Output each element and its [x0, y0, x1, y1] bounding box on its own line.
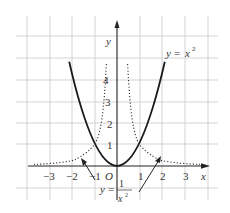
- x-tick-label: 1: [138, 170, 144, 182]
- x-tick-label: 2: [160, 170, 166, 182]
- x-axis-label: x: [200, 170, 206, 182]
- svg-text:1: 1: [119, 178, 124, 189]
- x-tick-label: 3: [183, 170, 189, 182]
- svg-text:x: x: [184, 47, 190, 59]
- y-axis-label: y: [105, 35, 111, 47]
- svg-text:y: y: [99, 183, 105, 195]
- y-axis-arrow-icon: [115, 20, 120, 28]
- curve-y-equals-1-over-x-squared-left: [34, 64, 106, 164]
- svg-text:y: y: [165, 47, 171, 59]
- label-y-equals-x-squared: y = x 2: [165, 45, 196, 59]
- svg-text:2: 2: [125, 192, 128, 198]
- svg-text:2: 2: [192, 45, 196, 53]
- x-tick-label: −1: [89, 170, 101, 182]
- y-tick-label: 2: [107, 118, 113, 130]
- x-tick-label: −2: [66, 170, 78, 182]
- x-axis-arrow-icon: [201, 163, 210, 168]
- y-tick-label: 3: [105, 96, 111, 108]
- graph-canvas: −3 −2 −1 O 1 2 3 x 1 2 3 4 y y = x 2 y =…: [0, 0, 230, 213]
- origin-label: O: [105, 170, 113, 182]
- y-tick-label: 4: [103, 74, 109, 86]
- pointer-right-arrow-icon: [155, 156, 161, 163]
- svg-text:x: x: [117, 193, 123, 204]
- svg-text:=: =: [108, 183, 114, 195]
- x-tick-label: −3: [43, 170, 55, 182]
- curve-y-equals-1-over-x-squared-right: [128, 64, 200, 164]
- svg-text:=: =: [174, 47, 180, 59]
- y-tick-label: 1: [107, 139, 113, 151]
- label-y-equals-1-over-x-squared: y = 1 x 2: [99, 178, 132, 204]
